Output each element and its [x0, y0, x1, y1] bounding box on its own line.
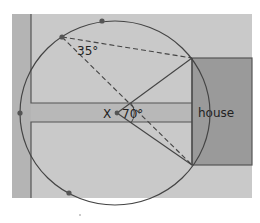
inscribed-angle-label: 35° — [77, 44, 98, 58]
point-left — [17, 110, 22, 115]
horizontal-road — [31, 103, 192, 122]
left-strip — [12, 14, 31, 198]
stray-mark — [79, 214, 81, 216]
house-label: house — [198, 106, 234, 120]
point-bottom-left — [66, 190, 71, 195]
center-point-label: X — [103, 107, 111, 121]
point-upper-left — [59, 34, 64, 39]
center-angle-label: 70° — [122, 107, 143, 121]
point-top — [99, 18, 104, 23]
circle-angle-diagram: house X 70° 35° — [0, 0, 260, 223]
center-point — [115, 111, 120, 116]
